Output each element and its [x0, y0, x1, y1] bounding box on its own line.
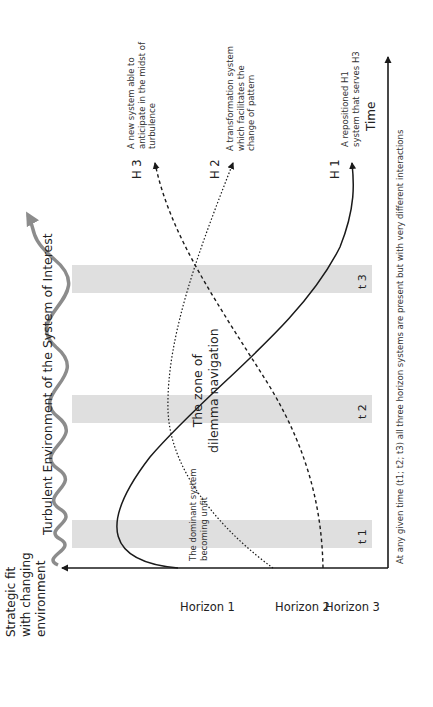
dilemma-zone-label: The zone of dilemma navigation — [190, 328, 221, 453]
horizon-1-start-label: Horizon 1 — [180, 600, 235, 614]
description-line: turbulence — [147, 42, 158, 149]
rotated-stage: Strategic fit with changing environment … — [0, 0, 433, 707]
dominant-system-note: The dominant system becoming unfit — [188, 469, 209, 562]
horizon-2-description: A transformation system which facilitate… — [225, 46, 257, 151]
description-line: system that serves H3 — [351, 51, 362, 147]
horizon-3-description: A new system able to anticipate in the m… — [126, 42, 158, 149]
description-line: which facilitates the — [236, 46, 247, 151]
time-band-label-t2: t 2 — [356, 404, 370, 419]
description-line: A transformation system — [225, 46, 236, 151]
horizon-3-curve — [155, 163, 323, 568]
horizon-1-end-label: H 1 — [328, 159, 342, 179]
horizon-3-start-label: Horizon 3 — [325, 600, 380, 614]
horizon-3-end-label: H 3 — [130, 159, 144, 179]
time-band-label-t3: t 3 — [356, 274, 370, 289]
description-line: A new system able to — [126, 42, 137, 149]
y-axis-label: Strategic fit with changing environment — [4, 552, 49, 637]
time-band-label-t1: t 1 — [356, 529, 370, 544]
time-axis-label: Time — [364, 102, 379, 131]
description-line: A repositioned H1 — [340, 51, 351, 147]
y-axis-label-line: with changing — [19, 552, 34, 637]
description-line: change of pattern — [246, 46, 257, 151]
horizon-2-end-label: H 2 — [208, 159, 222, 179]
description-line: anticipate in the midst of — [137, 42, 148, 149]
y-axis-label-line: Strategic fit — [4, 552, 19, 637]
time-bands — [72, 265, 372, 548]
environment-label: Turbulent Environment of the System of I… — [40, 233, 56, 535]
footnote: At any given time (t1; t2; t3) all three… — [395, 130, 406, 564]
y-axis-label-line: environment — [34, 552, 49, 637]
time-band-t2 — [72, 395, 372, 423]
horizon-2-start-label: Horizon 2 — [275, 600, 330, 614]
zone-label-line: The zone of — [190, 328, 206, 453]
dominant-note-line: The dominant system — [188, 469, 199, 562]
dominant-note-line: becoming unfit — [199, 469, 210, 562]
horizon-1-description: A repositioned H1 system that serves H3 — [340, 51, 361, 147]
zone-label-line: dilemma navigation — [206, 328, 222, 453]
horizon-1-curve — [117, 163, 353, 568]
